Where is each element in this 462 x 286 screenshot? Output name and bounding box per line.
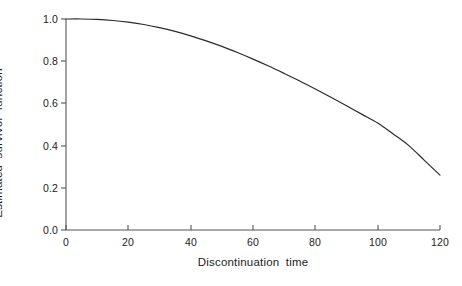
plot-canvas	[0, 0, 462, 286]
survivor-curve-line	[66, 19, 440, 175]
x-axis-ticks	[66, 225, 440, 230]
y-axis-ticks	[61, 19, 66, 230]
survivor-function-chart: Estimated survivor function Discontinuat…	[0, 0, 462, 286]
